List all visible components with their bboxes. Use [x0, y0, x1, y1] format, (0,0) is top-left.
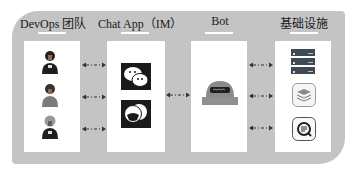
header-underline	[290, 32, 318, 34]
bidirectional-arrow-icon	[248, 62, 274, 68]
bidirectional-arrow-icon	[248, 125, 274, 131]
robot-icon	[202, 79, 238, 111]
header-devops-team: DevOps 团队	[20, 14, 86, 32]
bidirectional-arrow-icon	[81, 94, 107, 100]
header-infrastructure: 基础设施	[275, 14, 333, 32]
wechat-icon	[121, 63, 151, 94]
header-underline	[38, 32, 66, 34]
bidirectional-arrow-icon	[165, 92, 191, 98]
chat-app-icon	[121, 100, 151, 132]
stack-layers-icon	[292, 83, 316, 111]
person-icon	[41, 50, 59, 78]
person-icon	[41, 115, 59, 143]
header-underline	[205, 32, 233, 34]
monitor-search-icon	[292, 117, 316, 145]
header-chat-app: Chat App（IM）	[98, 14, 176, 32]
person-icon	[41, 83, 59, 111]
bidirectional-arrow-icon	[248, 93, 274, 99]
server-rack-icon	[291, 49, 315, 79]
bidirectional-arrow-icon	[81, 62, 107, 68]
header-bot: Bot	[193, 14, 247, 29]
column-chat-app	[107, 41, 165, 152]
header-underline	[121, 32, 149, 34]
bidirectional-arrow-icon	[81, 126, 107, 132]
